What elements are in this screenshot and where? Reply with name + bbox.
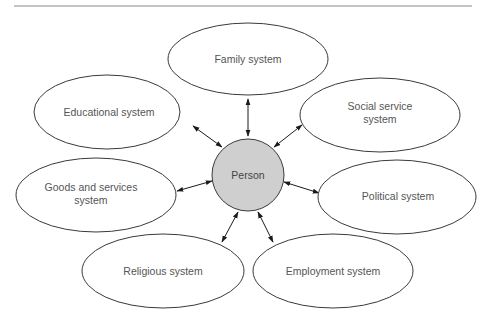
node-label: Goods and services [45, 181, 138, 193]
node-educational: Educational system [34, 75, 180, 149]
center-label: Person [231, 169, 264, 181]
node-social: Social service system [300, 78, 460, 152]
node-family: Family system [168, 23, 328, 95]
node-label: Employment system [286, 265, 381, 277]
node-label: Family system [214, 53, 281, 65]
node-label: system [74, 194, 108, 206]
node-person: Person [212, 139, 284, 211]
ecosystem-diagram: Family system Educational system Social … [0, 0, 492, 322]
node-goods: Goods and services system [16, 158, 176, 232]
node-political: Political system [318, 160, 476, 234]
node-label: Social service [348, 100, 413, 112]
node-employment: Employment system [253, 234, 413, 308]
node-label: Political system [362, 190, 435, 202]
node-religious: Religious system [82, 234, 244, 308]
arrow-political [284, 182, 319, 193]
node-label: Educational system [63, 106, 154, 118]
arrow-goods [177, 181, 212, 191]
arrow-religious [222, 212, 238, 242]
arrow-employment [258, 212, 273, 242]
node-label: Religious system [123, 265, 203, 277]
node-label: system [363, 113, 397, 125]
arrow-educational [193, 126, 222, 147]
arrow-social [274, 125, 302, 147]
